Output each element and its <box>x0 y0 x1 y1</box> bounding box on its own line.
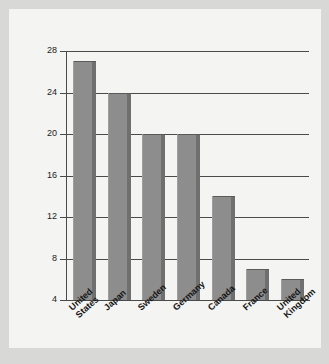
bar-left-edge <box>142 134 143 300</box>
bar-top-edge <box>177 134 200 135</box>
frame-edge-right <box>321 0 329 364</box>
bar-top-edge <box>142 134 165 135</box>
frame-edge-top <box>0 0 329 9</box>
bar[interactable] <box>73 61 96 300</box>
y-tick-label-wrap: 24 <box>32 88 57 97</box>
bar-shadow-edge <box>196 134 200 300</box>
y-tick-label-wrap: 12 <box>32 212 57 221</box>
bar-left-edge <box>177 134 178 300</box>
frame-edge-left <box>0 0 9 364</box>
frame-edge-bottom <box>0 348 329 364</box>
y-tick-label: 24 <box>35 88 57 97</box>
bar-left-edge <box>212 196 213 300</box>
bar-left-edge <box>108 93 109 301</box>
bar[interactable] <box>177 134 200 300</box>
y-tick-label-wrap: 16 <box>32 171 57 180</box>
bar-shadow-edge <box>161 134 165 300</box>
bar-left-edge <box>73 61 74 300</box>
y-tick-label-wrap: 28 <box>32 46 57 55</box>
bar[interactable] <box>108 93 131 301</box>
bar-left-edge <box>246 269 247 300</box>
y-tick-label: 28 <box>35 46 57 55</box>
y-tick-label: 4 <box>35 295 57 304</box>
bar-top-edge <box>108 93 131 94</box>
chart-canvas: Recycled municipal waste (%) 48121620242… <box>9 9 321 348</box>
bar-shadow-edge <box>127 93 131 301</box>
bar[interactable] <box>142 134 165 300</box>
plot-area <box>66 51 309 300</box>
y-tick-label-wrap: 8 <box>32 254 57 263</box>
y-tick-label-wrap: 20 <box>32 129 57 138</box>
y-tick-label: 8 <box>35 254 57 263</box>
bar-top-edge <box>246 269 269 270</box>
bar-top-edge <box>73 61 96 62</box>
y-tick-label: 20 <box>35 129 57 138</box>
y-tick-label: 12 <box>35 212 57 221</box>
y-tick-label: 16 <box>35 171 57 180</box>
y-tick-mark <box>60 300 66 301</box>
figure-frame: Recycled municipal waste (%) 48121620242… <box>0 0 329 364</box>
y-tick-label-wrap: 4 <box>32 295 57 304</box>
bar-shadow-edge <box>92 61 96 300</box>
bar-top-edge <box>212 196 235 197</box>
